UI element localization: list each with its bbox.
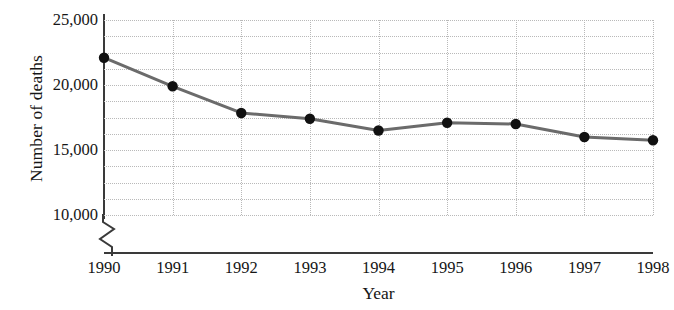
data-point-marker bbox=[648, 135, 658, 145]
data-point-marker bbox=[511, 119, 521, 129]
x-axis-tick-label: 1990 bbox=[69, 258, 139, 278]
x-axis-line bbox=[104, 252, 653, 254]
y-axis-tick-label: 15,000 bbox=[20, 140, 98, 160]
x-axis-tick-label: 1994 bbox=[344, 258, 414, 278]
y-axis-break-icon bbox=[94, 214, 120, 256]
data-point-marker bbox=[99, 53, 109, 63]
data-point-marker bbox=[579, 132, 589, 142]
data-point-marker bbox=[442, 118, 452, 128]
x-axis-tick-labels: 199019911992199319941995199619971998 bbox=[104, 258, 653, 282]
x-axis-tick-label: 1992 bbox=[206, 258, 276, 278]
data-point-marker bbox=[373, 125, 383, 135]
x-axis-tick-label: 1995 bbox=[412, 258, 482, 278]
series-layer bbox=[104, 20, 653, 215]
x-axis-tick-label: 1998 bbox=[618, 258, 674, 278]
x-axis-tick-label: 1997 bbox=[549, 258, 619, 278]
gridline-horizontal bbox=[104, 215, 653, 216]
x-axis-tick-label: 1991 bbox=[138, 258, 208, 278]
y-axis-tick-label: 20,000 bbox=[20, 75, 98, 95]
y-axis-tick-label: 25,000 bbox=[20, 10, 98, 30]
x-axis-tick-label: 1996 bbox=[481, 258, 551, 278]
x-axis-tick-label: 1993 bbox=[275, 258, 345, 278]
data-point-marker bbox=[167, 81, 177, 91]
y-axis-tick-label: 10,000 bbox=[20, 205, 98, 225]
plot-area bbox=[104, 20, 653, 215]
data-point-marker bbox=[305, 114, 315, 124]
x-axis-title: Year bbox=[104, 283, 653, 304]
gridline-vertical bbox=[653, 20, 654, 215]
data-point-marker bbox=[236, 108, 246, 118]
